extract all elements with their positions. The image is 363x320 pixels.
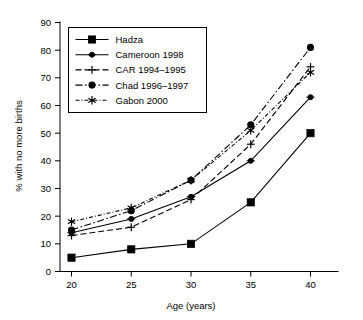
data-point-filled-square [128, 246, 135, 253]
y-tick-label: 70 [40, 72, 51, 83]
chart-figure: 0102030405060708090 2025303540 % with no… [0, 0, 363, 320]
y-tick-label: 80 [40, 45, 51, 56]
y-tick-label: 60 [40, 100, 51, 111]
y-tick-label: 0 [46, 266, 51, 277]
y-axis-title: % with no more births [13, 100, 24, 192]
data-point-filled-square [307, 130, 314, 137]
legend-label: Cameroon 1998 [116, 49, 184, 60]
y-tick-label: 40 [40, 155, 51, 166]
legend-label: Gabon 2000 [116, 95, 168, 106]
data-point-filled-square [68, 254, 75, 261]
legend-label: CAR 1994–1995 [116, 64, 186, 75]
legend-label: Hadza [116, 34, 144, 45]
legend-label: Chad 1996–1997 [116, 80, 189, 91]
data-point-star-center [249, 129, 252, 132]
y-tick-label: 90 [40, 17, 51, 28]
y-tick-label: 30 [40, 183, 51, 194]
x-tick-label: 35 [245, 279, 256, 290]
data-point-filled-square [187, 240, 194, 247]
data-point-circle-center [70, 229, 72, 231]
data-point-filled-square [88, 36, 95, 43]
y-tick-label: 50 [40, 128, 51, 139]
line-chart-canvas: 0102030405060708090 2025303540 % with no… [0, 0, 363, 320]
data-point-star-center [130, 207, 133, 210]
chart-legend: HadzaCameroon 1998CAR 1994–1995Chad 1996… [69, 28, 207, 113]
x-axis-title: Age (years) [166, 300, 215, 311]
y-tick-label: 10 [40, 238, 51, 249]
x-tick-label: 30 [186, 279, 197, 290]
data-point-filled-square [247, 199, 254, 206]
data-point-star-center [309, 71, 312, 74]
data-point-star-center [70, 220, 73, 223]
x-tick-label: 25 [126, 279, 137, 290]
data-point-circle-center [91, 84, 93, 86]
data-point-circle-center [250, 124, 252, 126]
x-tick-label: 20 [66, 279, 77, 290]
data-point-star-center [190, 179, 193, 182]
data-point-circle-center [309, 46, 311, 48]
x-tick-label: 40 [305, 279, 316, 290]
y-tick-label: 20 [40, 211, 51, 222]
data-point-star-center [91, 99, 94, 102]
